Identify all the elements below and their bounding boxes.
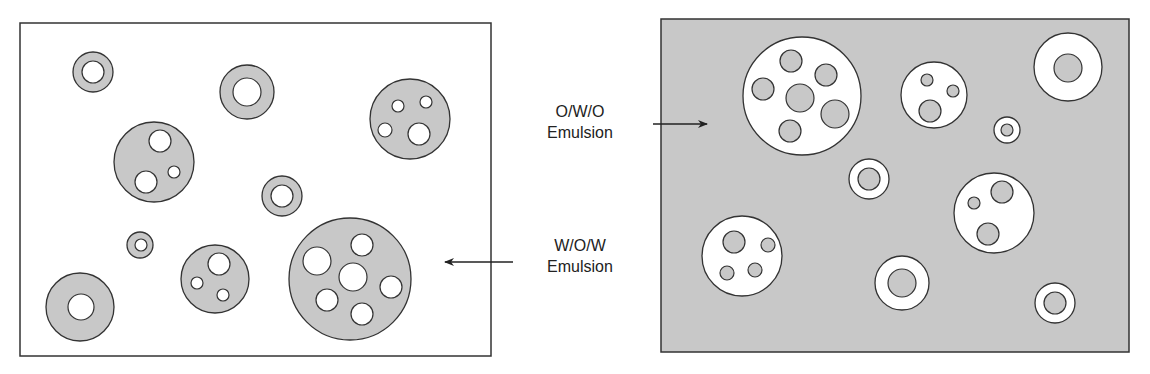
globule: [1034, 33, 1102, 101]
owo-label-line1: O/W/O: [520, 101, 640, 122]
inner-droplet: [947, 85, 959, 97]
owo-emulsion-panel: [661, 19, 1129, 352]
globule: [702, 216, 782, 296]
emulsion-diagram: [0, 0, 1150, 374]
globule: [289, 218, 411, 340]
globule: [46, 273, 114, 341]
inner-droplet: [82, 61, 104, 83]
globule: [114, 122, 194, 202]
inner-droplet: [420, 96, 432, 108]
wow-label-line1: W/O/W: [520, 235, 640, 256]
wow-emulsion-label: W/O/W Emulsion: [520, 235, 640, 277]
inner-droplet: [752, 78, 774, 100]
inner-droplet: [1044, 292, 1066, 314]
inner-droplet: [149, 130, 171, 152]
inner-droplet: [168, 166, 180, 178]
inner-droplet: [217, 289, 229, 301]
inner-droplet: [271, 185, 293, 207]
inner-droplet: [1054, 54, 1082, 82]
inner-droplet: [208, 253, 230, 275]
outer-droplet: [370, 79, 450, 159]
globule: [73, 52, 113, 92]
inner-droplet: [888, 269, 916, 297]
globule: [994, 117, 1020, 143]
inner-droplet: [921, 74, 933, 86]
inner-droplet: [748, 263, 762, 277]
globule: [220, 65, 274, 119]
inner-droplet: [858, 168, 880, 190]
inner-droplet: [720, 266, 734, 280]
globule: [743, 37, 861, 155]
wow-label-line2: Emulsion: [520, 256, 640, 277]
globule: [181, 245, 249, 313]
owo-label-line2: Emulsion: [520, 122, 640, 143]
globule: [262, 176, 302, 216]
globule: [1035, 283, 1075, 323]
inner-droplet: [380, 276, 402, 298]
inner-droplet: [351, 303, 373, 325]
inner-droplet: [786, 84, 814, 112]
inner-droplet: [1001, 124, 1013, 136]
inner-droplet: [919, 100, 941, 122]
inner-droplet: [378, 123, 392, 137]
wow-emulsion-panel: [20, 23, 491, 356]
outer-droplet: [702, 216, 782, 296]
inner-droplet: [780, 50, 802, 72]
inner-droplet: [408, 123, 430, 145]
globule: [370, 79, 450, 159]
inner-droplet: [392, 100, 404, 112]
inner-droplet: [135, 239, 147, 251]
inner-droplet: [779, 120, 801, 142]
globule: [901, 62, 967, 128]
inner-droplet: [191, 277, 203, 289]
inner-droplet: [351, 234, 373, 256]
inner-droplet: [815, 64, 837, 86]
inner-droplet: [233, 78, 261, 106]
globule: [849, 159, 889, 199]
inner-droplet: [316, 289, 338, 311]
owo-emulsion-label: O/W/O Emulsion: [520, 101, 640, 143]
inner-droplet: [977, 223, 999, 245]
inner-droplet: [761, 238, 775, 252]
inner-droplet: [991, 181, 1013, 203]
inner-droplet: [68, 294, 94, 320]
inner-droplet: [821, 100, 849, 128]
globule: [127, 232, 153, 258]
inner-droplet: [303, 247, 331, 275]
inner-droplet: [135, 171, 157, 193]
inner-droplet: [968, 197, 980, 209]
inner-droplet: [339, 263, 367, 291]
globule: [954, 173, 1034, 253]
inner-droplet: [723, 231, 745, 253]
globule: [875, 256, 929, 310]
